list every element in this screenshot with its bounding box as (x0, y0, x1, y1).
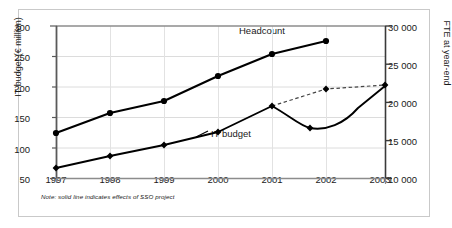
x-axis-ticks (57, 179, 386, 185)
it-budget-line (56, 86, 385, 168)
left-axis-ticks (50, 26, 57, 179)
right-axis-ticks (386, 26, 393, 179)
gridlines (56, 57, 386, 149)
